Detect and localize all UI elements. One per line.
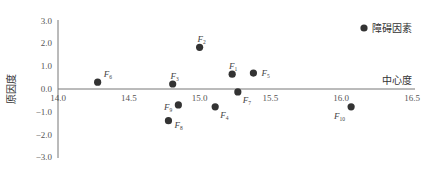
point-marker-icon <box>94 79 101 86</box>
point-label: F1 <box>228 61 238 72</box>
y-tick-label: −1.0 <box>36 107 53 117</box>
y-tick-label: 3.0 <box>41 16 53 26</box>
x-tick-label: 14.5 <box>121 93 137 103</box>
data-point-F1: F1 <box>228 61 238 78</box>
point-label: F3 <box>170 71 180 82</box>
y-axis-ticks: 3.02.01.00.0−1.0−2.0−3.0 <box>36 16 53 163</box>
point-label: F8 <box>173 120 183 131</box>
point-label: F10 <box>333 111 345 122</box>
x-tick-label: 15.5 <box>263 93 279 103</box>
y-tick-label: 1.0 <box>41 61 53 71</box>
x-tick-label: 14.0 <box>50 93 66 103</box>
point-marker-icon <box>175 101 182 108</box>
point-label: F6 <box>103 69 113 80</box>
point-marker-icon <box>250 69 257 76</box>
x-tick-label: 16.5 <box>404 93 420 103</box>
x-tick-label: 16.0 <box>333 93 349 103</box>
y-axis-label: 原因度 <box>5 74 17 104</box>
point-label: F2 <box>196 34 206 45</box>
x-axis-label: 中心度 <box>382 74 412 86</box>
data-point-F3: F3 <box>169 71 179 88</box>
scatter-chart: 3.02.01.00.0−1.0−2.0−3.0 14.014.515.015.… <box>0 0 437 171</box>
data-point-F10: F10 <box>333 103 355 122</box>
point-label: F7 <box>242 95 252 106</box>
legend: 障碍因素 <box>360 22 412 34</box>
x-axis-ticks: 14.014.515.015.516.016.5 <box>50 93 420 103</box>
legend-label: 障碍因素 <box>372 22 412 34</box>
data-point-F6: F6 <box>94 69 112 86</box>
point-marker-icon <box>165 117 172 124</box>
point-marker-icon <box>234 88 241 95</box>
point-label: F9 <box>163 102 173 113</box>
legend-marker-icon <box>360 24 367 31</box>
data-point-F8: F8 <box>165 117 183 131</box>
data-point-F2: F2 <box>196 34 206 51</box>
point-label: F4 <box>219 110 229 121</box>
y-tick-label: −2.0 <box>36 130 53 140</box>
x-tick-label: 15.0 <box>192 93 208 103</box>
point-label: F5 <box>260 68 270 79</box>
y-tick-label: 2.0 <box>41 38 53 48</box>
data-point-F7: F7 <box>234 88 251 106</box>
data-point-F4: F4 <box>212 103 229 121</box>
y-tick-label: −3.0 <box>36 152 53 162</box>
point-marker-icon <box>348 103 355 110</box>
point-marker-icon <box>212 103 219 110</box>
data-point-F5: F5 <box>250 68 270 79</box>
data-point-F9: F9 <box>163 101 182 113</box>
data-points: F1F2F3F4F5F6F7F8F9F10 <box>94 34 355 130</box>
